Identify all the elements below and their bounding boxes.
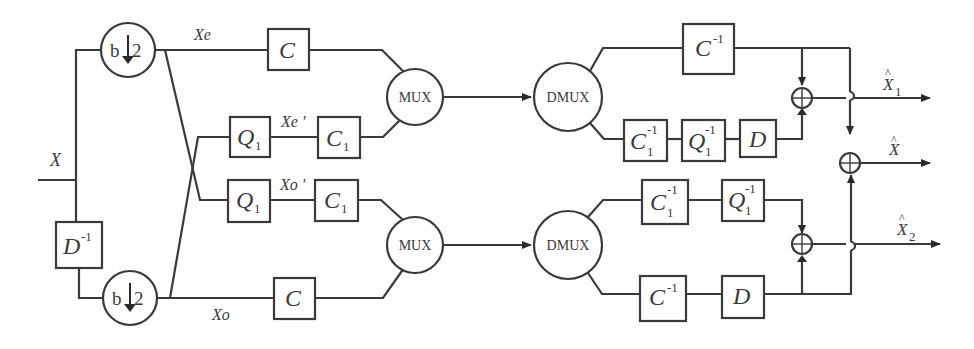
svg-text:1: 1	[705, 144, 712, 159]
block-d-upper: D	[740, 120, 776, 157]
mux-2: MUX	[387, 217, 443, 273]
svg-text:-1: -1	[667, 280, 678, 295]
block-q1-lower: Q 1	[228, 180, 270, 222]
block-c1inv-upper: C 1 -1	[624, 120, 667, 161]
xo-prime-label: Xo '	[279, 176, 306, 193]
svg-text:-1: -1	[647, 122, 658, 137]
adder-2	[792, 234, 812, 254]
c1-lower-to-mux2-wire	[358, 200, 403, 220]
block-c1-lower: C 1	[315, 180, 358, 221]
block-q1-upper: Q 1	[230, 117, 270, 157]
svg-text:C: C	[649, 284, 666, 310]
dmux-1: DMUX	[534, 63, 602, 131]
svg-text:1: 1	[341, 201, 348, 216]
block-cinv-top: C -1	[683, 24, 734, 74]
block-q1inv-lower: Q 1 -1	[722, 180, 764, 221]
wire-hop	[850, 92, 854, 100]
downsampler-bottom: b 2	[103, 271, 157, 325]
svg-text:2: 2	[134, 288, 144, 309]
svg-text:1: 1	[895, 84, 902, 99]
svg-text:D: D	[62, 233, 80, 259]
svg-text:^: ^	[885, 66, 891, 80]
block-c-bottom: C	[274, 278, 315, 319]
xo-label: Xo	[211, 306, 230, 323]
svg-text:1: 1	[255, 138, 262, 153]
d-lower-out-wire	[764, 250, 851, 294]
dmux1-bottom-wire	[590, 123, 624, 139]
c-bottom-to-mux2-wire	[315, 268, 404, 298]
svg-text:-1: -1	[81, 229, 92, 244]
svg-text:1: 1	[647, 144, 654, 159]
adder-final	[840, 153, 860, 173]
svg-text:1: 1	[667, 205, 674, 220]
downsampler-top: b 2	[101, 23, 155, 77]
dmux1-top-wire	[590, 48, 683, 71]
svg-text:C: C	[326, 125, 343, 151]
svg-text:Q: Q	[728, 187, 745, 213]
x2-hat-label: X ^ 2	[896, 211, 916, 244]
c-top-to-mux1-wire	[309, 50, 404, 72]
block-c-top: C	[268, 29, 309, 70]
svg-text:2: 2	[132, 40, 142, 61]
up-arrow-icon	[797, 255, 807, 262]
wire-hop	[851, 242, 855, 250]
block-diagram: X D -1 b 2 b 2 Xe Xo C Q	[0, 0, 974, 349]
svg-text:Q: Q	[688, 128, 705, 154]
svg-text:D: D	[732, 283, 750, 309]
svg-text:-1: -1	[745, 181, 756, 196]
svg-text:Q: Q	[236, 187, 253, 213]
svg-text:DMUX: DMUX	[547, 238, 590, 253]
svg-text:C: C	[695, 35, 712, 61]
svg-text:2: 2	[909, 229, 916, 244]
d-upper-out-wire	[776, 112, 802, 139]
svg-text:MUX: MUX	[399, 238, 432, 253]
svg-text:C: C	[285, 285, 302, 311]
delay-block: D -1	[56, 222, 102, 268]
xe-label: Xe	[193, 26, 211, 43]
dmux-2: DMUX	[534, 211, 602, 279]
svg-text:C: C	[630, 128, 647, 154]
svg-text:-1: -1	[713, 31, 724, 46]
x1-hat-label: X ^ 1	[882, 66, 902, 99]
xe-prime-label: Xe '	[280, 113, 306, 130]
input-label: X	[49, 150, 62, 170]
svg-text:-1: -1	[667, 182, 678, 197]
block-cinv-bottom: C -1	[640, 276, 686, 321]
svg-text:DMUX: DMUX	[547, 90, 590, 105]
svg-text:MUX: MUX	[399, 90, 432, 105]
block-d-lower: D	[722, 276, 764, 318]
svg-text:b: b	[110, 40, 120, 61]
svg-text:C: C	[324, 187, 341, 213]
dmux2-top-wire	[588, 200, 642, 217]
block-q1inv-upper: Q 1 -1	[682, 120, 725, 161]
svg-text:b: b	[112, 288, 122, 309]
svg-text:^: ^	[899, 211, 905, 225]
cross-wire-up	[170, 137, 230, 298]
svg-text:C: C	[650, 189, 667, 215]
c1-upper-to-mux1-wire	[360, 118, 402, 137]
svg-text:D: D	[748, 126, 766, 152]
svg-text:-1: -1	[705, 122, 716, 137]
cross-wire-down	[165, 50, 228, 200]
bus-top-wire	[76, 50, 100, 222]
block-c1-upper: C 1	[318, 117, 360, 158]
svg-text:C: C	[279, 37, 296, 63]
mux-1: MUX	[387, 69, 443, 125]
svg-text:1: 1	[343, 139, 350, 154]
block-c1inv-lower: C 1 -1	[642, 180, 688, 224]
bus-bottom-wire	[79, 268, 103, 298]
q1inv-lower-to-adder2-arrow	[764, 200, 802, 233]
dmux2-bottom-wire	[588, 273, 640, 294]
adder-1	[792, 88, 812, 108]
svg-text:Q: Q	[237, 124, 254, 150]
svg-text:^: ^	[891, 133, 897, 147]
svg-text:1: 1	[254, 201, 261, 216]
x-hat-label: X ^	[888, 133, 900, 159]
svg-text:1: 1	[745, 203, 752, 218]
